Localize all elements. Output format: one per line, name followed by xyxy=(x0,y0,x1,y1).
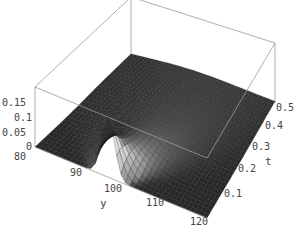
t-tick-0.1: 0.1 xyxy=(224,188,242,199)
t-tick-0.3: 0.3 xyxy=(252,141,270,152)
t-tick-0.2: 0.2 xyxy=(238,163,256,174)
surface-plot: 0.15 0.1 0.05 0 80 90 100 110 120 y 0.5 … xyxy=(0,0,303,232)
t-axis-label: t xyxy=(265,155,272,168)
y-tick-100: 100 xyxy=(104,183,122,194)
y-tick-110: 110 xyxy=(146,197,164,208)
y-tick-120: 120 xyxy=(190,216,208,227)
y-tick-90: 90 xyxy=(70,167,82,178)
z-tick-0.05: 0.05 xyxy=(2,127,26,138)
t-tick-0.5: 0.5 xyxy=(276,102,294,113)
t-tick-0.4: 0.4 xyxy=(265,120,283,131)
z-tick-0.1: 0.1 xyxy=(14,112,32,123)
y-axis-label: y xyxy=(100,197,107,210)
z-tick-0: 0 xyxy=(26,141,32,152)
y-tick-80: 80 xyxy=(14,151,26,162)
z-tick-0.15: 0.15 xyxy=(2,97,26,108)
